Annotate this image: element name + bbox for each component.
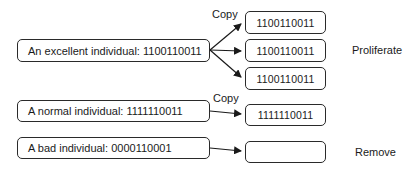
excellent-individual-box: An excellent individual: 1100110011 (17, 39, 210, 62)
bad-individual-box: A bad individual: 0000110001 (17, 137, 210, 159)
bad-empty-box (245, 141, 326, 163)
normal-individual-label: A normal individual: 1111110011 (28, 105, 183, 117)
excellent-copy-box-3: 1100110011 (245, 67, 326, 90)
copy-label-normal: Copy (213, 92, 239, 104)
remove-label: Remove (355, 146, 396, 158)
excellent-copy-value-2: 1100110011 (256, 45, 314, 57)
excellent-copy-box-1: 1100110011 (245, 11, 326, 34)
excellent-copy-value-1: 1100110011 (256, 17, 314, 29)
normal-copy-box: 1111110011 (245, 104, 326, 126)
excellent-copy-box-2: 1100110011 (245, 39, 326, 62)
bad-individual-label: A bad individual: 0000110001 (28, 142, 172, 154)
excellent-copy-value-3: 1100110011 (256, 73, 314, 85)
copy-label-excellent: Copy (212, 8, 238, 20)
excellent-individual-label: An excellent individual: 1100110011 (28, 45, 202, 57)
normal-copy-value: 1111110011 (258, 109, 314, 121)
normal-individual-box: A normal individual: 1111110011 (17, 100, 210, 122)
proliferate-label: Proliferate (352, 44, 402, 56)
